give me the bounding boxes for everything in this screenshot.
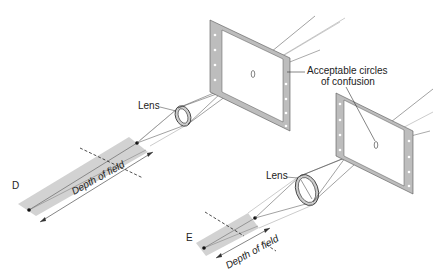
panel-e-label: E xyxy=(186,233,193,243)
circle-of-confusion-2 xyxy=(374,142,378,149)
lens-2-label: Lens xyxy=(266,171,288,181)
circles-label-line2: of confusion xyxy=(321,77,375,87)
film-frame-2 xyxy=(336,93,413,194)
circle-of-confusion-1 xyxy=(251,71,255,78)
depth-of-field-diagram xyxy=(0,0,443,276)
film-frame-1 xyxy=(210,20,290,131)
lens-1-label: Lens xyxy=(138,101,160,111)
lens-1 xyxy=(172,104,193,129)
circles-label-line1: Acceptable circles xyxy=(307,66,388,76)
panel-d-label: D xyxy=(12,181,19,191)
near-point-d xyxy=(27,208,31,212)
